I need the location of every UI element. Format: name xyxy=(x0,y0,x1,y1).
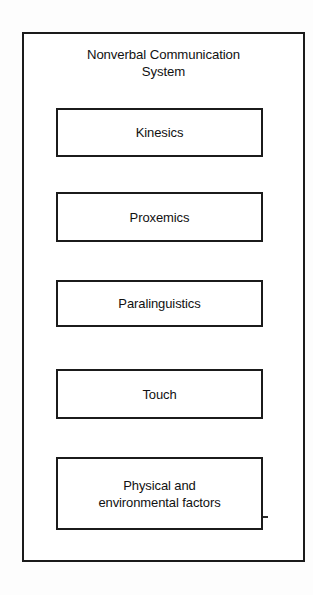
component-label-paralinguistics: Paralinguistics xyxy=(112,295,206,312)
component-box-proxemics: Proxemics xyxy=(56,192,263,242)
print-artifact-mark xyxy=(263,516,268,518)
component-box-touch: Touch xyxy=(56,369,263,419)
figure-canvas: Nonverbal Communication System Kinesics … xyxy=(0,0,313,595)
component-label-proxemics: Proxemics xyxy=(124,209,196,226)
nonverbal-communication-system-box: Nonverbal Communication System Kinesics … xyxy=(22,32,305,562)
system-title: Nonverbal Communication System xyxy=(24,46,303,80)
component-box-physical-environmental-factors: Physical and environmental factors xyxy=(56,457,263,530)
component-label-physical-environmental-factors: Physical and environmental factors xyxy=(92,477,226,511)
component-label-touch: Touch xyxy=(136,386,182,403)
component-box-kinesics: Kinesics xyxy=(56,108,263,157)
component-box-paralinguistics: Paralinguistics xyxy=(56,280,263,327)
component-label-kinesics: Kinesics xyxy=(130,124,190,141)
